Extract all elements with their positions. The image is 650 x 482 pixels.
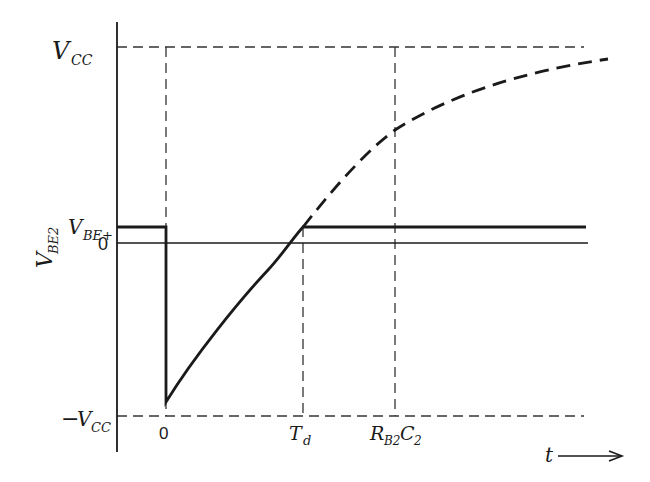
svg-text:d: d — [303, 433, 311, 448]
xtick-rb2-c2: R B2 C 2 — [369, 422, 422, 448]
svg-text:R: R — [369, 422, 384, 444]
svg-text:C: C — [400, 422, 415, 444]
ytick-neg-vcc: − V CC — [61, 406, 111, 435]
svg-text:T: T — [289, 422, 303, 444]
svg-text:CC: CC — [91, 420, 111, 435]
x-axis-label: t — [545, 443, 554, 467]
long-right-arrow-icon — [558, 451, 622, 461]
ytick-vcc: V CC — [52, 37, 93, 68]
y-axis-label: V BE2 — [32, 227, 61, 268]
ytick-zero: 0 — [98, 234, 108, 254]
svg-text:B2: B2 — [383, 434, 400, 448]
timing-diagram: V CC V BE+ 0 − V CC V BE2 0 T d R B2 C 2… — [0, 0, 650, 482]
xtick-td: T d — [289, 422, 311, 448]
xtick-zero: 0 — [159, 424, 168, 443]
svg-text:BE2: BE2 — [46, 227, 61, 255]
waveform-solid — [117, 227, 586, 402]
svg-text:V: V — [52, 37, 72, 65]
svg-text:2: 2 — [413, 434, 422, 448]
svg-text:CC: CC — [71, 52, 93, 68]
waveform-dashed-continuation — [303, 59, 608, 227]
